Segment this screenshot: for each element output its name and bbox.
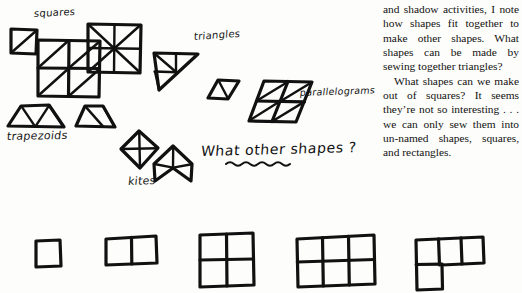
figure-kite-dart	[150, 143, 196, 185]
figure-trapezoid-narrow	[73, 101, 119, 132]
label-squares: squares	[34, 6, 76, 19]
figure-polyomino-1x1	[32, 236, 66, 272]
question-prefix: What	[200, 142, 245, 159]
question-underlined-word: other	[245, 141, 287, 158]
printed-paragraph-2: What shapes can we make out of squares? …	[383, 74, 519, 160]
figure-polyomino-3x2	[293, 231, 379, 291]
printed-text-column: and shadow activities, I note how shapes…	[383, 2, 519, 160]
figure-parallelogram-subdivided	[246, 76, 318, 128]
label-triangles: triangles	[194, 28, 241, 42]
figure-triangle-pair-small	[205, 76, 243, 104]
figure-square-eight-triangles	[84, 20, 146, 78]
figure-polyomino-2x2	[196, 229, 258, 291]
printed-paragraph-1: and shadow activities, I note how shapes…	[383, 2, 519, 74]
figure-triangle-subdivided-large	[150, 48, 202, 94]
wavy-underline	[225, 160, 291, 167]
scanned-book-page: squares triangles parallelograms trapezo…	[0, 0, 522, 293]
question-suffix: shapes ?	[285, 139, 358, 157]
handwritten-question: What other shapes ?	[200, 139, 357, 159]
figure-polyomino-L-shape	[412, 232, 490, 293]
figure-trapezoid-wide	[5, 100, 69, 132]
figure-polyomino-2x1	[102, 232, 160, 270]
